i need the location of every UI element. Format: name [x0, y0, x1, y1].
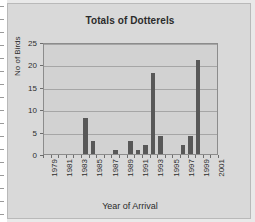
margin-tick [0, 45, 4, 46]
bar-slot [149, 44, 157, 154]
x-tick-label: 2001 [217, 159, 226, 177]
margin-tick [0, 136, 4, 137]
bar-slot [209, 44, 217, 154]
bar-slot [44, 44, 52, 154]
x-tick-mark [165, 155, 166, 158]
x-tick-mark [172, 155, 173, 158]
x-axis-labels: 1979198119831985198719891991199319951997… [43, 159, 218, 201]
bar-slot [59, 44, 67, 154]
x-tick-mark [119, 155, 120, 158]
margin-tick [0, 175, 4, 176]
chart-figure: Totals of Dotterels No of Birds 05101520… [0, 0, 255, 222]
bar [151, 73, 156, 154]
bar-slot [134, 44, 142, 154]
x-tick-mark [81, 155, 82, 158]
bar [83, 118, 88, 154]
bar [113, 150, 118, 154]
bar [188, 136, 193, 154]
y-axis: 0510152025 [8, 43, 43, 155]
margin-tick [0, 110, 4, 111]
bar-slot [119, 44, 127, 154]
margin-tick [0, 97, 4, 98]
x-tick-mark [127, 155, 128, 158]
bar-slot [97, 44, 105, 154]
bar-slot [127, 44, 135, 154]
page-margin-ruler [0, 0, 7, 222]
bar [196, 60, 201, 154]
bar-slot [164, 44, 172, 154]
bar-slot [104, 44, 112, 154]
bar-slot [89, 44, 97, 154]
margin-tick [0, 188, 4, 189]
y-tick-label: 25 [28, 39, 37, 48]
bar-slot [82, 44, 90, 154]
x-tick-mark [43, 155, 44, 158]
bar [158, 136, 163, 154]
x-tick-label: 1989 [126, 159, 135, 177]
x-tick-label: 1993 [156, 159, 165, 177]
x-tick-mark [203, 155, 204, 158]
x-tick-mark [73, 155, 74, 158]
x-tick-mark [111, 155, 112, 158]
margin-tick [0, 32, 4, 33]
x-tick-mark [210, 155, 211, 158]
y-tick-label: 20 [28, 61, 37, 70]
y-tick-label: 10 [28, 106, 37, 115]
x-tick-mark [150, 155, 151, 158]
margin-tick [0, 162, 4, 163]
bar-slot [202, 44, 210, 154]
bar-slot [142, 44, 150, 154]
y-tick-label: 15 [28, 84, 37, 93]
bar-slot [67, 44, 75, 154]
bar-slot [172, 44, 180, 154]
x-tick-label: 1985 [95, 159, 104, 177]
chart-title: Totals of Dotterels [8, 15, 252, 26]
x-tick-label: 1991 [141, 159, 150, 177]
bar [91, 141, 96, 154]
bar-slot [157, 44, 165, 154]
margin-tick [0, 123, 4, 124]
x-tick-mark [142, 155, 143, 158]
x-tick-label: 1999 [202, 159, 211, 177]
margin-tick [0, 201, 4, 202]
bar [143, 145, 148, 154]
x-tick-mark [134, 155, 135, 158]
bar-slot [187, 44, 195, 154]
margin-tick [0, 214, 4, 215]
margin-tick [0, 58, 4, 59]
margin-tick [0, 6, 4, 7]
bar [136, 150, 141, 154]
x-tick-mark [51, 155, 52, 158]
chart-card: Totals of Dotterels No of Birds 05101520… [7, 3, 251, 219]
x-tick-label: 1997 [187, 159, 196, 177]
x-tick-mark [104, 155, 105, 158]
bar [128, 141, 133, 154]
x-tick-mark [195, 155, 196, 158]
x-tick-mark [218, 155, 219, 158]
x-tick-mark [89, 155, 90, 158]
x-axis-title: Year of Arrival [8, 201, 252, 211]
margin-tick [0, 19, 4, 20]
x-tick-mark [188, 155, 189, 158]
bar [181, 145, 186, 154]
x-tick-mark [157, 155, 158, 158]
plot-area [43, 43, 218, 155]
y-tick-label: 5 [33, 129, 37, 138]
margin-tick [0, 71, 4, 72]
x-tick-mark [66, 155, 67, 158]
bar-slot [52, 44, 60, 154]
x-tick-label: 1983 [80, 159, 89, 177]
x-tick-mark [58, 155, 59, 158]
x-tick-mark [96, 155, 97, 158]
bar-slot [74, 44, 82, 154]
x-tick-label: 1981 [65, 159, 74, 177]
y-tick-label: 0 [33, 151, 37, 160]
bar-slot [112, 44, 120, 154]
x-tick-label: 1987 [111, 159, 120, 177]
margin-tick [0, 149, 4, 150]
x-tick-mark [180, 155, 181, 158]
bar-series [44, 44, 217, 154]
x-tick-label: 1995 [172, 159, 181, 177]
bar-slot [179, 44, 187, 154]
margin-tick [0, 84, 4, 85]
